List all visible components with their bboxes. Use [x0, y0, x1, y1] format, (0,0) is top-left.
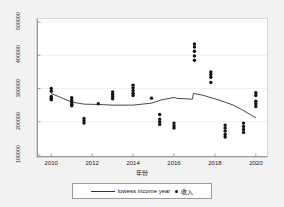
data-point	[158, 113, 161, 116]
data-point	[150, 96, 153, 99]
chart-legend: lowess income year 收入	[72, 183, 212, 199]
x-tick-label: 2012	[77, 160, 107, 166]
legend-line-swatch	[91, 191, 115, 192]
data-point	[254, 94, 257, 97]
legend-label-lowess: lowess income year	[118, 188, 171, 194]
x-axis-title: 年份	[0, 168, 284, 177]
data-point	[111, 97, 114, 100]
data-point	[50, 98, 53, 101]
chart-figure: 100000200000300000400000500000 201020122…	[0, 0, 284, 207]
x-tick-label: 2010	[36, 160, 66, 166]
data-point	[193, 50, 196, 53]
data-point	[97, 102, 100, 105]
data-point	[82, 121, 85, 124]
data-point	[242, 131, 245, 134]
data-point	[193, 42, 196, 45]
data-point	[70, 104, 73, 107]
data-point	[254, 105, 257, 108]
data-point	[242, 125, 245, 128]
legend-entry-lowess: lowess income year	[91, 188, 171, 194]
data-point	[242, 128, 245, 131]
x-tick-label: 2016	[159, 160, 189, 166]
data-point	[131, 94, 134, 97]
data-point	[223, 123, 226, 126]
plot-area	[36, 18, 268, 158]
legend-label-income: 收入	[181, 187, 193, 196]
data-point	[193, 59, 196, 62]
scatter-points	[50, 42, 258, 139]
data-point	[223, 129, 226, 132]
y-tick-label: 500000	[15, 0, 21, 42]
data-point	[209, 76, 212, 79]
data-point	[223, 135, 226, 138]
data-point	[193, 54, 196, 57]
data-point	[242, 121, 245, 124]
data-point	[50, 89, 53, 92]
x-tick-label: 2020	[241, 160, 271, 166]
axis-lines	[37, 19, 267, 157]
data-point	[223, 126, 226, 129]
plot-canvas	[37, 19, 267, 157]
data-point	[172, 126, 175, 129]
data-point	[193, 45, 196, 48]
data-point	[209, 81, 212, 84]
legend-dot-swatch	[175, 190, 178, 193]
lowess-line	[51, 93, 256, 117]
data-point	[158, 123, 161, 126]
x-tick-label: 2014	[118, 160, 148, 166]
legend-entry-income: 收入	[175, 187, 193, 196]
x-tick-label: 2018	[200, 160, 230, 166]
